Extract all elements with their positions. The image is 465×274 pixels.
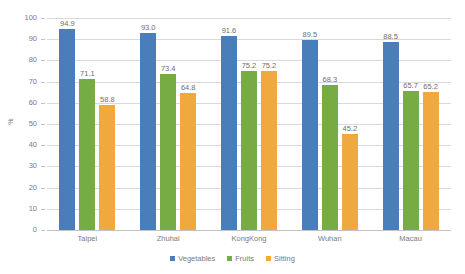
bar[interactable] xyxy=(180,93,196,230)
bar[interactable] xyxy=(383,42,399,230)
legend-label: Sitting xyxy=(274,254,295,263)
bar-slot: 88.5 xyxy=(383,18,399,230)
bar-value-label: 65.2 xyxy=(423,82,438,91)
chart-legend: VegetablesFruitsSitting xyxy=(0,254,465,263)
y-axis-tick-label: 90 xyxy=(29,35,37,43)
y-axis-tick-labels: 1009080706050403020100 xyxy=(0,18,45,230)
legend-label: Vegetables xyxy=(178,254,215,263)
y-axis-tick-mark xyxy=(41,124,45,125)
x-axis-tick-label: Wuhan xyxy=(289,234,370,243)
y-axis-tick-mark xyxy=(41,188,45,189)
bar-value-label: 58.8 xyxy=(100,95,115,104)
bar-group: 89.568.345.2 xyxy=(289,18,370,230)
bar-slot: 94.9 xyxy=(59,18,75,230)
bar[interactable] xyxy=(403,91,419,230)
bar-value-label: 91.6 xyxy=(222,26,237,35)
legend-item[interactable]: Fruits xyxy=(227,254,254,263)
y-axis-tick-label: 40 xyxy=(29,141,37,149)
bar-slot: 68.3 xyxy=(322,18,338,230)
bar-value-label: 73.4 xyxy=(161,64,176,73)
bar-slot: 91.6 xyxy=(221,18,237,230)
bar-value-label: 45.2 xyxy=(342,124,357,133)
bar-slot: 65.7 xyxy=(403,18,419,230)
bar-group: 91.675.275.2 xyxy=(209,18,290,230)
y-axis-tick-mark xyxy=(41,230,45,231)
x-axis-tick-labels: TaipeiZhuhaiKongKongWuhanMacau xyxy=(47,234,451,243)
y-axis-tick-mark xyxy=(41,209,45,210)
bar[interactable] xyxy=(302,40,318,230)
bar[interactable] xyxy=(160,74,176,230)
plot-area: 94.971.158.893.073.464.891.675.275.289.5… xyxy=(47,18,451,230)
x-axis-tick-label: Zhuhai xyxy=(128,234,209,243)
y-axis-tick-mark xyxy=(41,18,45,19)
x-axis-tick-label: Macau xyxy=(370,234,451,243)
x-axis-tick-label: KongKong xyxy=(209,234,290,243)
bar[interactable] xyxy=(59,29,75,230)
y-axis-tick-label: 80 xyxy=(29,56,37,64)
y-axis-tick-label: 50 xyxy=(29,120,37,128)
bar-value-label: 93.0 xyxy=(141,23,156,32)
bar-group-bars: 94.971.158.8 xyxy=(47,18,128,230)
y-axis-tick-label: 30 xyxy=(29,162,37,170)
legend-item[interactable]: Sitting xyxy=(266,254,295,263)
bar-value-label: 64.8 xyxy=(181,83,196,92)
bar[interactable] xyxy=(99,105,115,230)
bar-slot: 65.2 xyxy=(423,18,439,230)
bar-slot: 75.2 xyxy=(241,18,257,230)
bar[interactable] xyxy=(322,85,338,230)
y-axis-tick-label: 10 xyxy=(29,205,37,213)
y-axis-tick-mark xyxy=(41,39,45,40)
bar-value-label: 89.5 xyxy=(302,30,317,39)
bar-group-bars: 89.568.345.2 xyxy=(289,18,370,230)
bar-slot: 73.4 xyxy=(160,18,176,230)
bar-value-label: 71.1 xyxy=(80,69,95,78)
gridline xyxy=(47,230,451,231)
y-axis-tick-mark xyxy=(41,103,45,104)
y-axis-tick-label: 20 xyxy=(29,184,37,192)
bar-slot: 89.5 xyxy=(302,18,318,230)
bar-slot: 45.2 xyxy=(342,18,358,230)
bar-slot: 58.8 xyxy=(99,18,115,230)
bar[interactable] xyxy=(140,33,156,230)
bar-group: 88.565.765.2 xyxy=(370,18,451,230)
y-axis-tick-mark xyxy=(41,82,45,83)
bar-slot: 64.8 xyxy=(180,18,196,230)
bar-chart: % 1009080706050403020100 94.971.158.893.… xyxy=(0,0,465,274)
y-axis-tick-mark xyxy=(41,166,45,167)
bar-slot: 93.0 xyxy=(140,18,156,230)
bar[interactable] xyxy=(423,92,439,230)
y-axis-tick-label: 70 xyxy=(29,78,37,86)
bar-value-label: 65.7 xyxy=(403,81,418,90)
bar[interactable] xyxy=(342,134,358,230)
legend-item[interactable]: Vegetables xyxy=(170,254,215,263)
y-axis-tick-mark xyxy=(41,145,45,146)
bar[interactable] xyxy=(241,71,257,230)
bar-slot: 71.1 xyxy=(79,18,95,230)
y-axis-tick-label: 100 xyxy=(24,14,37,22)
bar-group-bars: 88.565.765.2 xyxy=(370,18,451,230)
bar-slot: 75.2 xyxy=(261,18,277,230)
bar-value-label: 68.3 xyxy=(322,75,337,84)
bar-group-bars: 93.073.464.8 xyxy=(128,18,209,230)
bar-value-label: 88.5 xyxy=(383,32,398,41)
bar-value-label: 94.9 xyxy=(60,19,75,28)
y-axis-tick-label: 60 xyxy=(29,99,37,107)
legend-label: Fruits xyxy=(235,254,254,263)
legend-swatch-icon xyxy=(170,256,175,261)
legend-swatch-icon xyxy=(227,256,232,261)
bar[interactable] xyxy=(221,36,237,230)
bar[interactable] xyxy=(261,71,277,230)
bar-group: 93.073.464.8 xyxy=(128,18,209,230)
bar-groups: 94.971.158.893.073.464.891.675.275.289.5… xyxy=(47,18,451,230)
bar-value-label: 75.2 xyxy=(242,61,257,70)
y-axis-tick-mark xyxy=(41,60,45,61)
bar-value-label: 75.2 xyxy=(262,61,277,70)
x-axis-tick-label: Taipei xyxy=(47,234,128,243)
legend-swatch-icon xyxy=(266,256,271,261)
bar[interactable] xyxy=(79,79,95,230)
bar-group-bars: 91.675.275.2 xyxy=(209,18,290,230)
bar-group: 94.971.158.8 xyxy=(47,18,128,230)
y-axis-tick-label: 0 xyxy=(33,226,37,234)
